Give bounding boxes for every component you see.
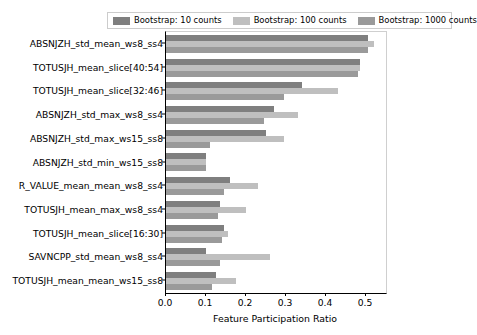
bar [166, 71, 358, 77]
bars-layer [166, 32, 386, 293]
legend-entry: Bootstrap: 10 counts [113, 16, 222, 25]
bar [166, 237, 222, 243]
plot-area [165, 31, 387, 294]
bar [166, 189, 224, 195]
bar-group [166, 103, 386, 127]
y-tick-mark [162, 42, 165, 43]
bar [166, 94, 284, 100]
chart-legend: Bootstrap: 10 countsBootstrap: 100 count… [107, 12, 452, 29]
x-tick-mark [165, 293, 166, 296]
x-tick-label: 0.3 [278, 297, 293, 308]
x-tick-mark [325, 293, 326, 296]
x-tick-label: 0.4 [318, 297, 333, 308]
bar [166, 47, 368, 53]
x-axis-title: Feature Participation Ratio [165, 313, 385, 324]
y-tick-mark [162, 114, 165, 115]
y-tick-label: ABSNJZH_std_max_ws8_ss4 [36, 109, 163, 120]
bar-group [166, 246, 386, 270]
legend-swatch-icon [233, 17, 250, 25]
legend-entry: Bootstrap: 1000 counts [358, 16, 477, 25]
y-tick-mark [162, 185, 165, 186]
x-tick-label: 0.2 [238, 297, 253, 308]
bar-group [166, 32, 386, 56]
x-tick-mark [245, 293, 246, 296]
bar-group [166, 269, 386, 293]
legend-label: Bootstrap: 1000 counts [379, 16, 477, 25]
legend-entry: Bootstrap: 100 counts [233, 16, 347, 25]
bar [166, 165, 206, 171]
legend-swatch-icon [358, 17, 375, 25]
y-tick-mark [162, 66, 165, 67]
bar [166, 118, 264, 124]
bar [166, 284, 212, 290]
bar-group [166, 56, 386, 80]
y-tick-mark [162, 280, 165, 281]
bar [166, 213, 218, 219]
bar [166, 260, 220, 266]
bar-group [166, 198, 386, 222]
y-tick-label: SAVNCPP_std_mean_ws8_ss4 [28, 251, 163, 262]
y-tick-mark [162, 232, 165, 233]
y-tick-mark [162, 90, 165, 91]
bar-group [166, 151, 386, 175]
y-tick-mark [162, 161, 165, 162]
y-tick-label: R_VALUE_mean_mean_ws8_ss4 [19, 180, 163, 191]
y-tick-mark [162, 137, 165, 138]
bar-group [166, 174, 386, 198]
y-tick-label: TOTUSJH_mean_max_ws8_ss4 [24, 203, 163, 214]
y-tick-mark [162, 256, 165, 257]
y-tick-label: TOTUSJH_mean_slice[40:54] [33, 61, 163, 72]
y-tick-mark [162, 208, 165, 209]
legend-label: Bootstrap: 100 counts [254, 16, 347, 25]
y-tick-label: ABSNJZH_std_mean_ws8_ss4 [30, 37, 163, 48]
x-tick-mark [205, 293, 206, 296]
y-tick-label: TOTUSJH_mean_slice[16:30] [33, 227, 163, 238]
x-tick-label: 0.5 [358, 297, 373, 308]
x-tick-mark [365, 293, 366, 296]
y-tick-label: ABSNJZH_std_min_ws15_ss8 [33, 156, 163, 167]
bar-group [166, 222, 386, 246]
bar-group [166, 127, 386, 151]
y-tick-label: TOTUSJH_mean_mean_ws15_ss8 [12, 275, 163, 286]
x-tick-mark [285, 293, 286, 296]
x-tick-label: 0.1 [198, 297, 213, 308]
bar [166, 142, 210, 148]
legend-label: Bootstrap: 10 counts [134, 16, 222, 25]
y-tick-label: ABSNJZH_std_max_ws15_ss8 [30, 132, 163, 143]
legend-swatch-icon [113, 17, 130, 25]
y-tick-label: TOTUSJH_mean_slice[32:46] [33, 85, 163, 96]
x-tick-label: 0.0 [158, 297, 173, 308]
bar-group [166, 79, 386, 103]
